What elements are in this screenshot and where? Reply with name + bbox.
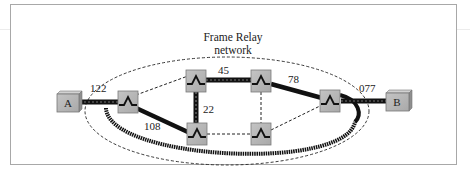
dlci-label-108: 108 <box>144 120 161 132</box>
switch-s6[interactable] <box>320 90 340 112</box>
network-title-line2: network <box>214 44 252 56</box>
switch-s4[interactable] <box>187 123 207 145</box>
switch-s2[interactable] <box>186 70 206 92</box>
endpoint-a[interactable]: A <box>57 91 82 112</box>
dlci-label-077: 077 <box>359 82 376 94</box>
switch-s3[interactable] <box>251 70 271 92</box>
dlci-label-78: 78 <box>288 73 300 85</box>
dlci-label-22: 22 <box>203 103 214 115</box>
endpoint-b-label: B <box>393 96 400 108</box>
endpoint-b[interactable]: B <box>386 90 412 111</box>
dlci-label-122: 122 <box>90 82 107 94</box>
network-title-line1: Frame Relay <box>203 31 262 44</box>
frame-relay-diagram: A B Frame Relay network 122 108 45 22 78… <box>0 0 470 174</box>
dlci-label-45: 45 <box>218 64 230 76</box>
switch-s1[interactable] <box>118 91 138 113</box>
endpoint-a-label: A <box>64 97 72 109</box>
switch-s5[interactable] <box>251 123 271 145</box>
